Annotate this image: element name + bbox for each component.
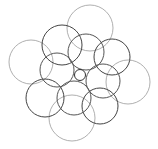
circle-5 — [94, 39, 130, 75]
circle-4 — [42, 25, 82, 65]
circle-6 — [26, 79, 64, 117]
circle-9 — [57, 81, 91, 115]
circle-diagram — [0, 0, 158, 149]
circle-0 — [67, 5, 113, 51]
circle-12 — [75, 70, 86, 81]
circle-1 — [9, 40, 53, 84]
circle-7 — [82, 88, 118, 124]
circle-3 — [49, 95, 95, 141]
circle-11 — [68, 34, 104, 70]
